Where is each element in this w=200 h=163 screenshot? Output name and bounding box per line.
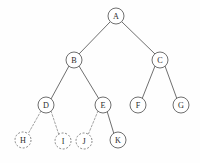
tree-edge-a-c: [122, 22, 155, 54]
edge-layer: [28, 22, 177, 135]
tree-node-c[interactable]: C: [152, 52, 168, 68]
tree-edge-b-e: [79, 66, 99, 99]
tree-node-f[interactable]: F: [130, 97, 146, 113]
tree-node-i[interactable]: I: [55, 133, 71, 149]
tree-node-j[interactable]: J: [76, 133, 92, 149]
node-label-e: E: [100, 101, 105, 110]
binary-tree-figure: ABCDEFGHIJK: [0, 0, 200, 163]
tree-node-b[interactable]: B: [66, 52, 82, 68]
tree-edge-a-b: [79, 22, 110, 54]
tree-edge-d-h: [28, 111, 41, 134]
tree-edge-e-j: [88, 111, 98, 135]
tree-edge-b-d: [51, 66, 69, 99]
node-label-d: D: [43, 101, 49, 110]
node-label-g: G: [178, 101, 184, 110]
node-label-c: C: [157, 56, 163, 65]
tree-node-g[interactable]: G: [173, 97, 189, 113]
tree-node-h[interactable]: H: [15, 132, 31, 148]
tree-edge-c-f: [142, 66, 155, 99]
tree-node-e[interactable]: E: [95, 97, 111, 113]
tree-node-d[interactable]: D: [38, 97, 54, 113]
node-label-h: H: [20, 136, 26, 145]
tree-edge-d-i: [51, 111, 59, 135]
node-label-k: K: [115, 136, 121, 145]
tree-edge-c-g: [165, 66, 177, 99]
tree-node-a[interactable]: A: [108, 8, 124, 24]
node-label-i: I: [62, 137, 65, 146]
tree-canvas: ABCDEFGHIJK: [0, 0, 200, 163]
node-label-a: A: [113, 12, 119, 21]
tree-node-k[interactable]: K: [110, 132, 126, 148]
node-layer: ABCDEFGHIJK: [15, 8, 189, 149]
node-label-b: B: [71, 56, 77, 65]
node-label-f: F: [136, 101, 141, 110]
tree-edge-e-k: [107, 111, 114, 134]
